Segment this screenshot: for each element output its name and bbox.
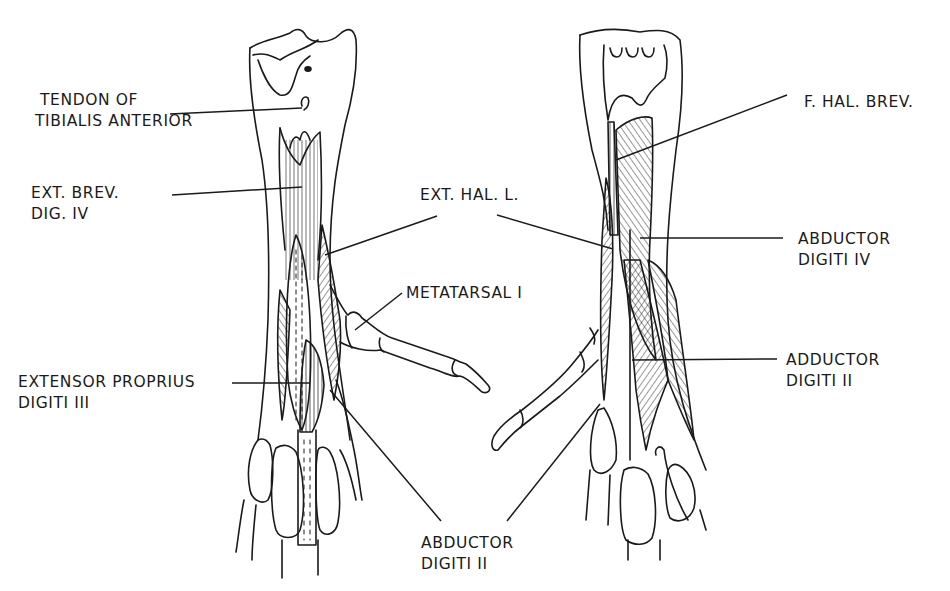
label-ext-brev-dig-iv: EXT. BREV. DIG. IV (31, 183, 119, 225)
label-tendon-tibialis-anterior: TENDON OF TIBIALIS ANTERIOR (35, 90, 193, 132)
label-f-hal-brev: F. HAL. BREV. (804, 92, 914, 113)
leader-adductor-ii (632, 359, 777, 360)
label-adductor-digiti-ii: ADDUCTOR DIGITI II (786, 350, 880, 392)
leader-ext-hal-l-right (497, 215, 613, 249)
right-foot-plantar-view (492, 29, 706, 560)
label-abductor-digiti-ii: ABDUCTOR DIGITI II (421, 533, 514, 575)
leader-ext-hal-l-left (325, 216, 437, 255)
leader-ext-brev-dig-iv (172, 187, 302, 195)
label-metatarsal-i: METATARSAL I (406, 283, 523, 304)
leader-abductor-ii-right (507, 404, 600, 521)
label-abductor-digiti-iv: ABDUCTOR DIGITI IV (798, 229, 891, 271)
leader-metatarsal-i (355, 293, 402, 330)
label-ext-hal-l: EXT. HAL. L. (420, 185, 519, 206)
label-extensor-proprius-digiti-iii: EXTENSOR PROPRIUS DIGITI III (18, 372, 195, 414)
leader-abductor-ii-left (330, 390, 441, 521)
